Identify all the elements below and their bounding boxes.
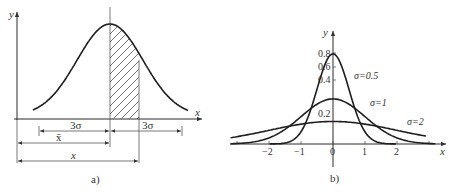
- hatch-line: [105, 23, 145, 63]
- panel-a: y x 3σ 3σ x̄ x a): [8, 0, 202, 186]
- hatch-line: [105, 0, 145, 23]
- x-tick-label: 0: [330, 146, 335, 157]
- panel-b: y x −2−1012 0.8 0.6 0.4 0.2 σ=0.5 σ=1 σ=…: [230, 26, 446, 185]
- hatch-line: [105, 7, 145, 47]
- x-tick-label: 1: [362, 146, 367, 157]
- panel-b-y-label: y: [322, 26, 328, 38]
- panel-a-x-label: x: [194, 106, 200, 118]
- dim-x-label: x: [70, 149, 76, 161]
- panel-b-caption: b): [330, 172, 340, 185]
- panel-a-y-label: y: [8, 8, 14, 20]
- curve-label-sigma-1: σ=1: [370, 97, 387, 108]
- hatch-line: [105, 0, 145, 31]
- x-tick-label: 2: [394, 146, 399, 157]
- dim-3sigma-right-label: 3σ: [142, 119, 154, 131]
- y-tick-label: 0.2: [318, 108, 331, 119]
- hatch-line: [105, 0, 145, 7]
- dim-3sigma-left-label: 3σ: [70, 119, 82, 131]
- curve-sigma-2: [231, 122, 426, 138]
- panel-b-x-label: x: [439, 145, 445, 157]
- curve-label-sigma-0.5: σ=0.5: [354, 70, 378, 81]
- curve-label-sigma-2: σ=2: [407, 116, 424, 127]
- hatch-line: [105, 0, 145, 15]
- x-tick-label: −1: [294, 146, 305, 157]
- figure: y x 3σ 3σ x̄ x a) y x −2−1012: [0, 0, 457, 194]
- panel-a-caption: a): [91, 173, 100, 186]
- dim-mean-label: x̄: [56, 131, 62, 143]
- x-tick-label: −2: [262, 146, 273, 157]
- hatch-line: [105, 15, 145, 55]
